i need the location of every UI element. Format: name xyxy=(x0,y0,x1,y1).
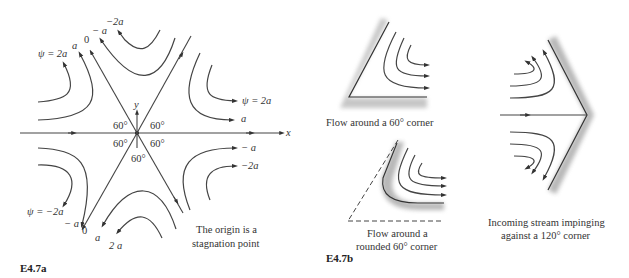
label-psi-2a-top: ψ = 2a xyxy=(38,48,67,59)
bottom-streamlines xyxy=(103,191,176,238)
label-zero-bottom: 0 xyxy=(82,225,87,236)
label-psi-neg-2a: ψ = −2a xyxy=(27,206,63,217)
angle-label: 60° xyxy=(150,120,165,131)
impinging-corner-diagram: Incoming stream impinging against a 120°… xyxy=(488,36,605,241)
y-axis: y xyxy=(133,99,139,148)
figure-a: x y 60° 60° 60° 60° 60° xyxy=(20,16,291,274)
y-axis-label: y xyxy=(133,99,139,110)
caption-impinge-line2: against a 120° corner xyxy=(501,230,591,241)
figure-b: Flow around a 60° corner Flow around a r… xyxy=(326,18,605,264)
angle-label: 60° xyxy=(150,138,165,149)
caption-rounded-line2: rounded 60° corner xyxy=(356,241,438,252)
caption-sharp-corner: Flow around a 60° corner xyxy=(326,117,434,128)
angle-label: 60° xyxy=(131,153,146,164)
caption-impinge-line1: Incoming stream impinging xyxy=(488,217,605,228)
label-a-top: a xyxy=(72,40,77,51)
diagram-canvas: x y 60° 60° 60° 60° 60° xyxy=(0,0,629,278)
label-a-right: a xyxy=(241,113,246,124)
right-streamlines xyxy=(183,53,235,210)
label-psi-2a-right: ψ = 2a xyxy=(242,95,271,106)
label-zero-top: 0 xyxy=(84,34,89,45)
angle-label: 60° xyxy=(113,120,128,131)
label-neg-2a-right: −2a xyxy=(241,160,259,171)
zero-streamlines xyxy=(83,36,191,228)
label-neg-2a-top: −2a xyxy=(106,16,124,27)
label-neg-a-top: − a xyxy=(92,25,107,36)
x-axis-label: x xyxy=(285,127,291,138)
label-2a-bottom: 2 a xyxy=(109,240,122,251)
left-streamlines xyxy=(38,54,93,225)
rounded-corner-diagram: Flow around a rounded 60° corner xyxy=(348,140,444,252)
stagnation-note-line2: stagnation point xyxy=(192,238,259,249)
stagnation-note-line1: The origin is a xyxy=(196,224,257,235)
label-neg-a-right: − a xyxy=(241,142,256,153)
figure-b-label: E4.7b xyxy=(326,252,353,264)
label-neg-a-bottom: − a xyxy=(64,218,79,229)
figure-a-label: E4.7a xyxy=(20,262,47,274)
top-streamlines xyxy=(101,30,175,75)
label-a-bottom: a xyxy=(95,232,100,243)
angle-label: 60° xyxy=(113,138,128,149)
sharp-corner-diagram: Flow around a 60° corner xyxy=(326,18,434,128)
caption-rounded-line1: Flow around a xyxy=(367,228,428,239)
